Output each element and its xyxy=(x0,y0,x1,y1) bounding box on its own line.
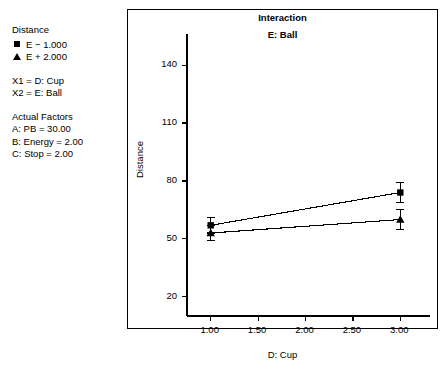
square-marker xyxy=(397,189,403,195)
chart-page: Distance E − 1.000 E + 2.000 X1 = D: Cup… xyxy=(0,0,448,376)
actual-factor-c: C: Stop = 2.00 xyxy=(12,148,127,161)
y-tick-label: 110 xyxy=(137,116,177,127)
x-tick-label: 2.00 xyxy=(285,324,325,335)
x-tick-label: 2.50 xyxy=(332,324,372,335)
factor-map-x2: X2 = E: Ball xyxy=(12,87,127,100)
y-tick-label: 140 xyxy=(137,58,177,69)
actual-factor-a: A: PB = 30.00 xyxy=(12,123,127,136)
legend-panel: Distance E − 1.000 E + 2.000 X1 = D: Cup… xyxy=(12,24,127,161)
x-tick-label: 1.50 xyxy=(237,324,277,335)
y-tick-label: 50 xyxy=(137,232,177,243)
factor-map-x1: X1 = D: Cup xyxy=(12,75,127,88)
x-axis-title: D: Cup xyxy=(127,349,438,360)
triangle-marker-icon xyxy=(12,53,21,62)
triangle-marker xyxy=(396,215,404,222)
legend-entry-label: E − 1.000 xyxy=(26,39,67,52)
y-axis-title: Distance xyxy=(134,141,145,178)
y-tick-label: 20 xyxy=(137,290,177,301)
plot-frame: Interaction E: Ball xyxy=(127,9,438,329)
square-marker-icon xyxy=(12,40,21,49)
legend-entry-1: E + 2.000 xyxy=(12,51,127,64)
actual-factor-b: B: Energy = 2.00 xyxy=(12,136,127,149)
x-tick-label: 1.00 xyxy=(190,324,230,335)
legend-title: Distance xyxy=(12,24,127,37)
legend-entry-label: E + 2.000 xyxy=(26,51,67,64)
x-tick-label: 3.00 xyxy=(379,324,419,335)
legend-entry-0: E − 1.000 xyxy=(12,39,127,52)
y-tick-label: 80 xyxy=(137,174,177,185)
actual-factors-title: Actual Factors xyxy=(12,111,127,124)
